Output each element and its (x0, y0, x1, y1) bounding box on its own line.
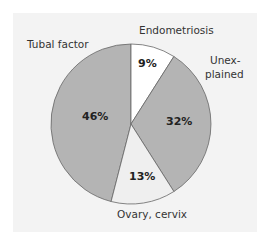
label-unexplained-line2: plained (205, 69, 244, 80)
pie-chart (0, 0, 269, 243)
label-ovary-cervix: Ovary, cervix (117, 209, 187, 220)
percent-unexplained: 32% (166, 116, 192, 127)
percent-ovary-cervix: 13% (129, 171, 155, 182)
label-endometriosis: Endometriosis (139, 25, 214, 36)
percent-endometriosis: 9% (138, 58, 157, 69)
label-unexplained-line1: Unex- (210, 55, 241, 66)
percent-tubal-factor: 46% (82, 111, 108, 122)
label-tubal-factor: Tubal factor (27, 39, 89, 50)
